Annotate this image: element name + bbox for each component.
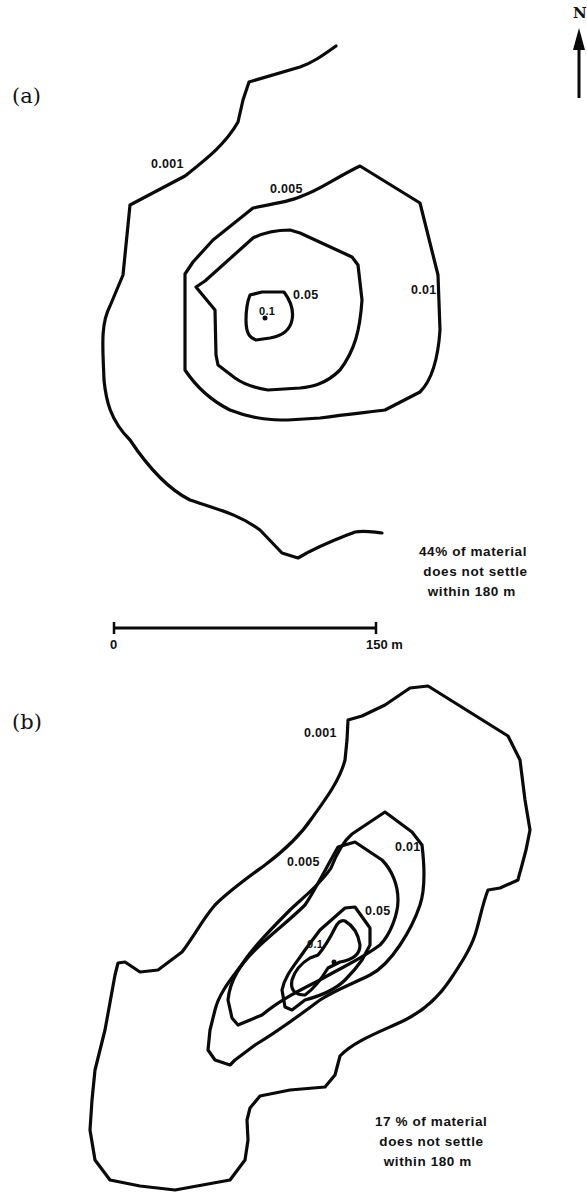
contour-label-a-0050: 0.05 — [293, 288, 319, 302]
contour-label-a-0100: 0.1 — [259, 305, 275, 317]
panel-a-note-line-2: does not settle — [419, 564, 528, 579]
panel-a-label: (a) — [12, 84, 41, 108]
panel-a-note-line-3: within 180 m — [419, 584, 516, 599]
panel-a-contours — [103, 46, 440, 558]
contour-label-b-0010: 0.01 — [395, 840, 421, 854]
panel-a-note: 44% of material does not settle within 1… — [419, 542, 528, 602]
north-arrow-icon — [573, 28, 585, 98]
contour-label-b-0001: 0.001 — [304, 726, 337, 740]
north-label: N — [573, 4, 587, 22]
contour-label-b-0050: 0.05 — [365, 904, 391, 918]
panel-a-note-line-1: 44% of material — [419, 544, 527, 559]
scale-bar — [114, 622, 376, 634]
settling-contour-figure: N (a) 0.001 0.005 0.01 0.05 0.1 44% of m… — [0, 0, 587, 1193]
contour-label-a-0001: 0.001 — [151, 157, 184, 171]
contour-label-b-0100: 0.1 — [307, 938, 323, 950]
contour-label-b-0005: 0.005 — [287, 855, 320, 869]
panel-b-note: 17 % of material does not settle within … — [375, 1112, 487, 1172]
contour-a-0010 — [196, 230, 362, 390]
contour-label-a-0005: 0.005 — [270, 182, 303, 196]
panel-b-note-line-3: within 180 m — [375, 1154, 472, 1169]
contour-a-0001 — [103, 46, 382, 558]
contour-b-0100-peak — [332, 960, 337, 965]
panel-b-note-line-2: does not settle — [375, 1134, 484, 1149]
panel-b-label: (b) — [12, 710, 42, 734]
scale-bar-end-label: 150 m — [366, 637, 403, 652]
contour-label-a-0010: 0.01 — [411, 283, 437, 297]
scale-bar-start-label: 0 — [110, 637, 117, 652]
panel-b-note-line-1: 17 % of material — [375, 1114, 487, 1129]
